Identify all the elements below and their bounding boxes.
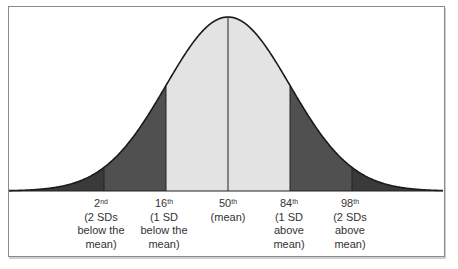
label-2nd-percentile: 2nd (2 SDsbelow themean) <box>66 197 136 251</box>
label-16th-percentile: 16th (1 SDbelow themean) <box>129 197 199 251</box>
label-84th-percentile: 84th (1 SDabovemean) <box>254 197 324 251</box>
label-50th-percentile: 50th (mean) <box>193 197 263 224</box>
label-98th-percentile: 98th (2 SDsabovemean) <box>315 197 385 251</box>
